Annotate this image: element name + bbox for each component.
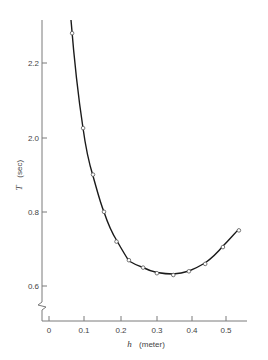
x-axis-title: h (meter) — [127, 333, 165, 350]
chart: 2.2 2.0 0.8 0.6 0 0.1 0.2 0.3 0.4 0.5 h … — [0, 0, 268, 360]
x-tick-label: 0.1 — [78, 326, 90, 335]
data-point-marker — [81, 126, 85, 130]
data-point-marker — [203, 262, 207, 266]
data-point-marker — [172, 273, 176, 277]
x-tick-label: 0 — [47, 326, 52, 335]
data-point-marker — [187, 270, 191, 274]
y-tick-label: 0.8 — [28, 208, 40, 217]
y-tick-label: 2.0 — [28, 134, 40, 143]
data-point-marker — [155, 271, 159, 275]
data-point-marker — [237, 229, 241, 233]
x-tick-label: 0.3 — [151, 326, 163, 335]
data-markers — [70, 31, 240, 276]
x-tick-label: 0.5 — [220, 326, 232, 335]
x-axis-line — [42, 314, 247, 321]
data-point-marker — [115, 240, 119, 244]
y-tick-label: 0.6 — [28, 282, 40, 291]
y-axis-title: T (sec) — [8, 160, 25, 191]
x-tick-label: 0.4 — [186, 326, 198, 335]
y-ticks: 2.2 2.0 0.8 0.6 — [28, 59, 47, 291]
fit-curve — [71, 20, 239, 274]
x-tick-label: 0.2 — [115, 326, 127, 335]
data-point-marker — [70, 31, 74, 35]
y-tick-label: 2.2 — [28, 59, 40, 68]
data-point-marker — [127, 258, 131, 262]
data-point-marker — [141, 266, 145, 270]
x-ticks: 0 0.1 0.2 0.3 0.4 0.5 — [47, 316, 232, 335]
data-point-marker — [221, 245, 225, 249]
y-axis-break-icon — [38, 300, 46, 314]
data-point-marker — [102, 210, 106, 214]
data-point-marker — [91, 173, 95, 177]
